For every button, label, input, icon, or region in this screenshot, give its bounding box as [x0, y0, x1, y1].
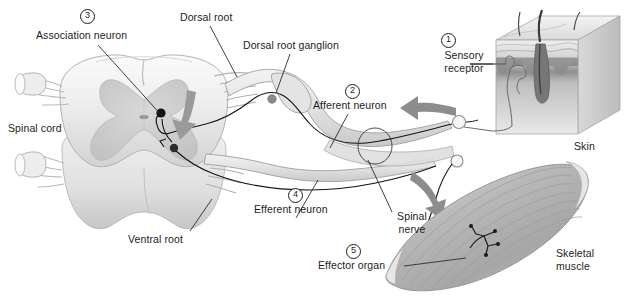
label-spinal-nerve: Spinal nerve [389, 210, 435, 235]
marker-2: 2 [345, 84, 360, 99]
marker-4: 4 [288, 188, 303, 203]
label-association-neuron: Association neuron [36, 29, 127, 42]
label-ventral-root: Ventral root [128, 233, 183, 246]
label-afferent-neuron: Afferent neuron [313, 99, 387, 112]
spinal-cord-illustration [15, 55, 258, 229]
efferent-nerve-cut-end [451, 155, 463, 167]
label-skeletal-muscle: Skeletal muscle [556, 247, 594, 272]
label-sensory-receptor: Sensory receptor [436, 49, 492, 74]
label-dorsal-root: Dorsal root [180, 11, 232, 24]
hair-follicle [534, 44, 549, 103]
marker-5: 5 [346, 244, 361, 259]
efferent-cell-body [170, 144, 178, 152]
reflex-arc-figure: 3 Association neuron Spinal cord Dorsal … [0, 0, 625, 297]
label-skin: Skin [574, 140, 595, 153]
marker-1: 1 [441, 33, 456, 48]
label-efferent-neuron: Efferent neuron [254, 203, 328, 216]
afferent-arrow-left [400, 96, 456, 120]
label-dorsal-root-ganglion: Dorsal root ganglion [243, 39, 339, 52]
ganglion-cell-body [268, 95, 276, 103]
label-spinal-cord: Spinal cord [8, 122, 62, 135]
afferent-nerve-cut-end [453, 116, 466, 129]
hair-shaft-left [519, 12, 521, 36]
label-effector-organ: Effector organ [318, 259, 385, 272]
marker-3: 3 [80, 9, 95, 24]
afferent-synapse-bouton [156, 108, 165, 117]
spinal-nerve-structure [204, 69, 466, 181]
